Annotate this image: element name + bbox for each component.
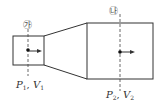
expansion-bottom-edge (44, 65, 87, 79)
pipe-diagram: ㉮ ㉯ P1, V1 P2, V2 (0, 0, 164, 102)
section-2-arrowhead-icon (130, 50, 135, 54)
section-2-label: P2, V2 (105, 89, 134, 101)
section-1-label: P1, V1 (15, 79, 44, 91)
expansion-top-edge (44, 23, 87, 36)
section-2-marker: ㉯ (109, 6, 118, 16)
section-1-marker: ㉮ (23, 20, 32, 30)
velocity-2-subscript: 2 (130, 94, 134, 101)
section-1-arrowhead-icon (37, 49, 42, 53)
velocity-1-subscript: 1 (40, 84, 44, 91)
